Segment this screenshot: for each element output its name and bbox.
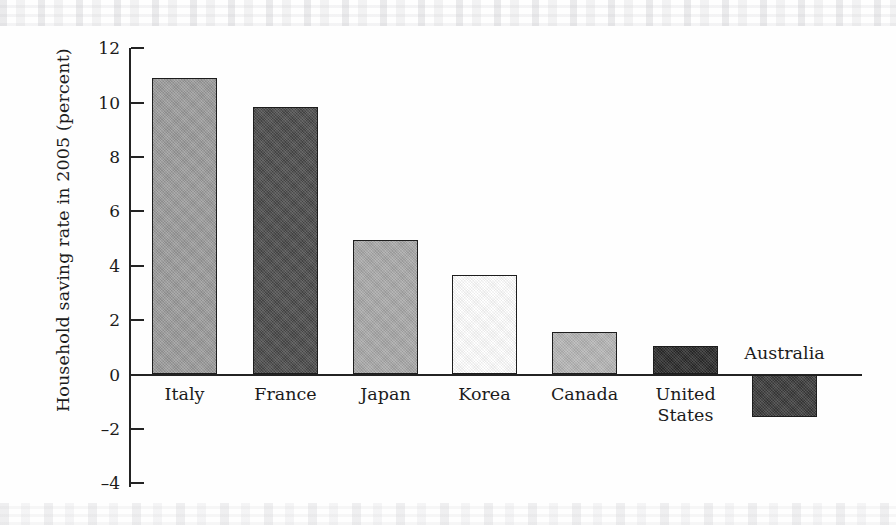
- y-axis-tick: [131, 265, 144, 267]
- bar-fill-texture: [254, 108, 317, 374]
- y-axis-tick: [131, 428, 144, 430]
- plot-area: 121086420–2–4 ItalyFranceJapanKoreaCanad…: [0, 0, 896, 525]
- bar-france: [253, 107, 318, 375]
- bar-fill-texture: [753, 376, 816, 416]
- bar-japan: [353, 240, 418, 375]
- category-label: Australia: [715, 343, 855, 364]
- bar-fill-texture: [453, 276, 516, 373]
- figure-root: Household saving rate in 2005 (percent) …: [0, 0, 896, 525]
- y-axis-tick-label: 6: [76, 201, 120, 221]
- y-axis-tick-label: –2: [76, 419, 120, 439]
- bar-fill-texture: [553, 333, 616, 373]
- y-axis-tick-label: 0: [76, 365, 120, 385]
- y-axis-tick: [131, 482, 144, 484]
- bar-fill-texture: [153, 79, 216, 373]
- y-axis-tick-label: –4: [76, 473, 120, 493]
- bar-fill-texture: [354, 241, 417, 374]
- bar-korea: [452, 275, 517, 374]
- y-axis-tick: [131, 210, 144, 212]
- bar-united-states: [653, 346, 718, 375]
- y-axis-tick: [131, 319, 144, 321]
- y-axis-tick-label: 8: [76, 147, 120, 167]
- y-axis-spine: [129, 48, 131, 487]
- y-axis-tick: [131, 47, 144, 49]
- y-axis-tick-labels: 121086420–2–4: [76, 0, 120, 525]
- y-axis-tick-label: 4: [76, 256, 120, 276]
- bar-canada: [552, 332, 617, 374]
- bar-fill-texture: [654, 347, 717, 374]
- category-label: United States: [616, 384, 756, 426]
- y-axis-tick-label: 10: [76, 93, 120, 113]
- y-axis-tick-label: 2: [76, 310, 120, 330]
- bar-italy: [152, 78, 217, 374]
- y-axis-tick: [131, 102, 144, 104]
- bar-australia: [752, 375, 817, 417]
- y-axis-tick: [131, 156, 144, 158]
- y-axis-tick-label: 12: [76, 38, 120, 58]
